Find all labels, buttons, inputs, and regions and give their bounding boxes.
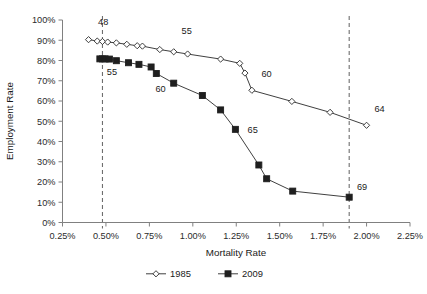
legend-label-2009: 2009 — [242, 268, 263, 279]
y-tick-label-1: 10% — [37, 198, 55, 208]
x-tick-label-2: 0.75% — [136, 231, 162, 241]
x-axis-title: Mortality Rate — [206, 247, 267, 258]
data-point-2009-4 — [113, 58, 119, 64]
x-tick-label-7: 2.00% — [354, 231, 380, 241]
annotation-65-6: 65 — [248, 125, 258, 135]
annotation-55-1: 55 — [107, 67, 117, 77]
annotation-69-7: 69 — [357, 182, 367, 192]
y-tick-label-2: 20% — [37, 177, 55, 187]
data-point-2009-7 — [148, 64, 154, 70]
data-point-2009-15 — [290, 188, 296, 194]
annotation-60-4: 60 — [261, 69, 271, 79]
data-point-2009-16 — [346, 194, 352, 200]
employment-mortality-chart: 0%10%20%30%40%50%60%70%80%90%100% 0.25%0… — [0, 0, 427, 294]
annotation-60-3: 60 — [155, 84, 165, 94]
data-point-2009-12 — [232, 126, 238, 132]
data-point-2009-11 — [218, 107, 224, 113]
y-tick-label-10: 100% — [32, 15, 56, 25]
y-tick-label-7: 70% — [37, 76, 55, 86]
data-point-2009-3 — [106, 56, 112, 62]
x-tick-label-4: 1.25% — [223, 231, 249, 241]
y-tick-label-3: 30% — [37, 157, 55, 167]
x-axis-ticks-group: 0.25%0.50%0.75%1.00%1.25%1.50%1.75%2.00%… — [49, 223, 423, 241]
x-tick-label-8: 2.25% — [397, 231, 423, 241]
data-point-2009-6 — [136, 61, 142, 67]
annotation-48-0: 48 — [98, 17, 108, 27]
legend-label-1985: 1985 — [170, 268, 191, 279]
chart-svg: 0%10%20%30%40%50%60%70%80%90%100% 0.25%0… — [0, 0, 427, 294]
data-point-2009-8 — [153, 70, 159, 76]
y-tick-label-5: 50% — [37, 117, 55, 127]
y-tick-label-4: 40% — [37, 137, 55, 147]
y-axis-title: Employment Rate — [4, 82, 15, 160]
data-point-2009-13 — [256, 162, 262, 168]
x-tick-label-0: 0.25% — [49, 231, 75, 241]
x-tick-label-3: 1.00% — [180, 231, 206, 241]
data-point-2009-14 — [264, 176, 270, 182]
data-point-2009-9 — [171, 80, 177, 86]
legend-marker-2009 — [225, 271, 231, 277]
x-tick-label-6: 1.75% — [310, 231, 336, 241]
y-tick-label-6: 60% — [37, 96, 55, 106]
y-tick-label-8: 80% — [37, 56, 55, 66]
x-tick-label-1: 0.50% — [93, 231, 119, 241]
x-tick-label-5: 1.50% — [267, 231, 293, 241]
y-tick-label-0: 0% — [42, 218, 55, 228]
annotation-55-2: 55 — [182, 26, 192, 36]
annotation-64-5: 64 — [374, 104, 384, 114]
y-tick-label-9: 90% — [37, 36, 55, 46]
data-point-2009-10 — [199, 93, 205, 99]
data-point-2009-5 — [126, 60, 132, 66]
